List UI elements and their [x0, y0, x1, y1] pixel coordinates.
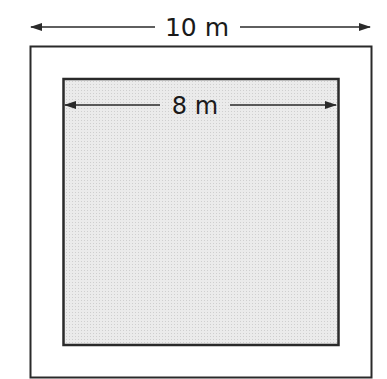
outer-dimension: 10 m	[31, 13, 370, 42]
inner-dimension-label: 8 m	[172, 92, 218, 120]
square-diagram: 10 m 8 m	[0, 0, 387, 379]
outer-dimension-label: 10 m	[165, 13, 229, 42]
